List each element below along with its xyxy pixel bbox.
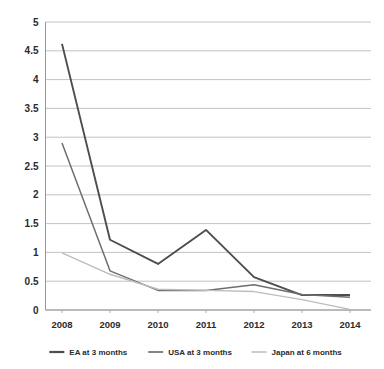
- y-axis-tick-label: 4: [33, 74, 39, 85]
- legend-label: EA at 3 months: [69, 348, 127, 357]
- chart-canvas: 54.543.532.521.510.50 200820092010201120…: [0, 0, 384, 369]
- y-axis-tick-label: 1.5: [25, 218, 39, 229]
- chart-legend: EA at 3 monthsUSA at 3 monthsJapan at 6 …: [49, 348, 342, 357]
- y-axis-tick-label: 3.5: [25, 103, 39, 114]
- x-axis-tick-label: 2013: [291, 319, 312, 330]
- x-axis-tick-label: 2012: [243, 319, 264, 330]
- y-axis-tick-label: 3: [33, 132, 39, 143]
- y-axis-tick-label: 2: [33, 189, 39, 200]
- y-axis-tick-labels: 54.543.532.521.510.50: [25, 17, 39, 316]
- line-chart: 54.543.532.521.510.50 200820092010201120…: [0, 0, 384, 369]
- y-axis-tick-label: 0: [33, 305, 39, 316]
- x-axis-tick-label: 2008: [51, 319, 72, 330]
- y-axis-tick-label: 2.5: [25, 161, 39, 172]
- x-axis-tick-labels: 2008200920102011201220132014: [51, 319, 361, 330]
- x-axis-tick-label: 2009: [99, 319, 120, 330]
- x-axis-tick-label: 2010: [147, 319, 168, 330]
- x-axis-tick-label: 2014: [339, 319, 361, 330]
- x-axis-tick-label: 2011: [196, 319, 217, 330]
- y-axis-tick-label: 4.5: [25, 45, 39, 56]
- y-axis-tick-label: 0.5: [25, 276, 39, 287]
- y-axis-tick-label: 5: [33, 17, 39, 28]
- y-axis-tick-label: 1: [33, 247, 39, 258]
- axis-lines: [46, 22, 372, 313]
- legend-label: USA at 3 months: [168, 348, 232, 357]
- legend-label: Japan at 6 months: [272, 348, 343, 357]
- data-series-group: [62, 44, 350, 310]
